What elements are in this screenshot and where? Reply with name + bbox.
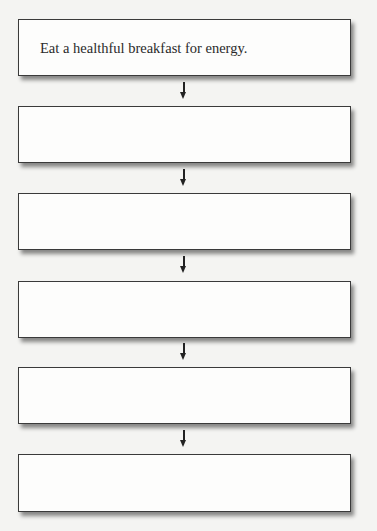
flow-step-4	[18, 281, 351, 338]
flow-step-6	[18, 454, 351, 512]
flow-step-1: Eat a healthful breakfast for energy.	[18, 19, 351, 76]
down-arrow-icon	[183, 169, 185, 186]
flow-step-5	[18, 367, 351, 424]
down-arrow-icon	[183, 82, 185, 99]
flow-step-3	[18, 193, 351, 250]
flow-step-1-label: Eat a healthful breakfast for energy.	[40, 40, 247, 57]
flow-step-2	[18, 106, 351, 163]
down-arrow-icon	[183, 256, 185, 273]
down-arrow-icon	[183, 343, 185, 360]
down-arrow-icon	[183, 430, 185, 447]
